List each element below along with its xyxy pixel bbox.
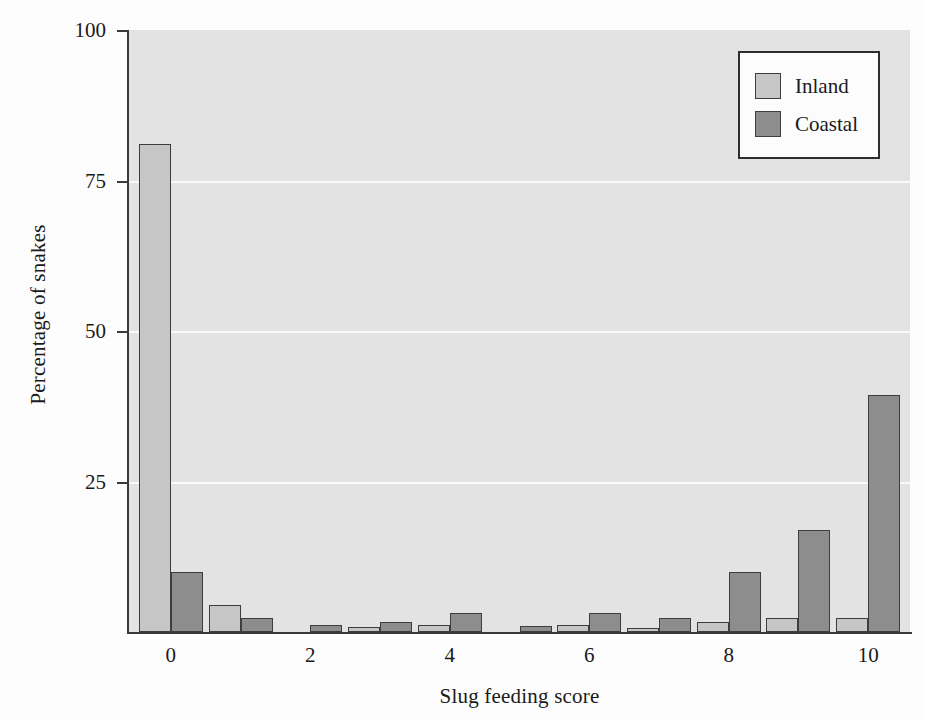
bar-coastal-10 [868, 395, 900, 632]
x-tick-label: 4 [420, 643, 480, 668]
bar-inland-6 [557, 625, 589, 632]
y-tick-label: 75 [0, 168, 106, 193]
bar-coastal-9 [798, 530, 830, 632]
y-tick-mark [117, 482, 128, 484]
y-axis-tick-labels: 100755025 [0, 0, 106, 720]
bar-inland-0 [139, 144, 171, 632]
legend-swatch-icon [755, 73, 781, 99]
gridline [129, 331, 910, 333]
bar-coastal-4 [450, 613, 482, 632]
legend-item-coastal: Coastal [755, 105, 858, 143]
y-tick-mark [117, 181, 128, 183]
bar-coastal-2 [310, 625, 342, 632]
y-tick-label: 100 [0, 18, 106, 43]
bar-coastal-7 [659, 618, 691, 632]
x-tick-label: 0 [141, 643, 201, 668]
gridline [129, 181, 910, 183]
legend-swatch-icon [755, 111, 781, 137]
legend-label: Inland [795, 76, 849, 97]
bar-coastal-3 [380, 622, 412, 632]
bar-coastal-6 [589, 613, 621, 632]
x-tick-label: 10 [838, 643, 898, 668]
bar-coastal-0 [171, 572, 203, 632]
bar-inland-10 [836, 618, 868, 632]
bar-inland-4 [418, 625, 450, 632]
legend-label: Coastal [795, 114, 858, 135]
x-axis-tick-labels: 0246810 [129, 643, 910, 675]
x-tick-label: 6 [559, 643, 619, 668]
y-tick-label: 25 [0, 469, 106, 494]
bar-coastal-8 [729, 572, 761, 632]
legend-item-inland: Inland [755, 67, 858, 105]
x-axis-title: Slug feeding score [129, 684, 910, 709]
y-tick-label: 50 [0, 319, 106, 344]
y-tick-mark [117, 30, 128, 32]
bar-inland-8 [697, 622, 729, 632]
y-tick-mark [117, 331, 128, 333]
bar-inland-9 [766, 618, 798, 632]
x-axis-line [127, 632, 912, 634]
chart-figure: Percentage of snakes 100755025 0246810 S… [0, 0, 925, 720]
gridline [129, 482, 910, 484]
x-tick-label: 8 [699, 643, 759, 668]
x-tick-label: 2 [280, 643, 340, 668]
bar-inland-1 [209, 605, 241, 632]
legend: InlandCoastal [738, 51, 880, 159]
bar-coastal-1 [241, 618, 273, 632]
